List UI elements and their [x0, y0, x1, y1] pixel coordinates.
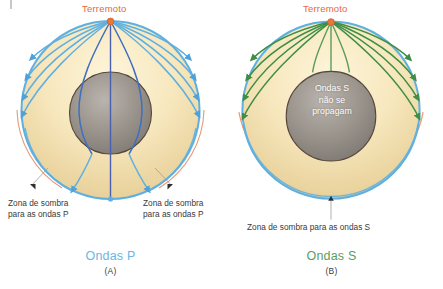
- earthquake-label-s: Terremoto: [303, 3, 348, 14]
- shadow-zone-label-right-p: Zona de sombra para as ondas P: [143, 198, 203, 219]
- panel-a-diagram: [0, 0, 221, 289]
- earthquake-source-marker-p: [107, 18, 114, 25]
- earthquake-source-marker-s: [328, 19, 335, 26]
- p-ray-central-terminus: [108, 196, 113, 201]
- core-block-label-s: Ondas S não se propagam: [296, 83, 368, 118]
- caption-ondas-s: Ondas S: [221, 249, 442, 263]
- caption-letter-b: (B): [221, 266, 442, 276]
- panel-b-diagram: [221, 0, 442, 289]
- earthquake-label-p: Terremoto: [82, 3, 127, 14]
- caption-ondas-p: Ondas P: [0, 249, 221, 263]
- caption-letter-a: (A): [0, 266, 221, 276]
- seismic-shadow-zone-figure: Terremoto Zona de sombra para as ondas P…: [0, 0, 443, 289]
- shadow-zone-label-s: Zona de sombra para as ondas S: [247, 222, 370, 233]
- panel-ondas-p: Terremoto Zona de sombra para as ondas P…: [0, 0, 221, 289]
- leader-line-left: [31, 168, 48, 186]
- leader-arrow-right: [168, 184, 174, 190]
- shadow-zone-label-left-p: Zona de sombra para as ondas P: [8, 198, 68, 219]
- leader-arrow-left: [30, 184, 36, 190]
- panel-ondas-s: Terremoto Ondas S não se propagam Zona d…: [221, 0, 442, 289]
